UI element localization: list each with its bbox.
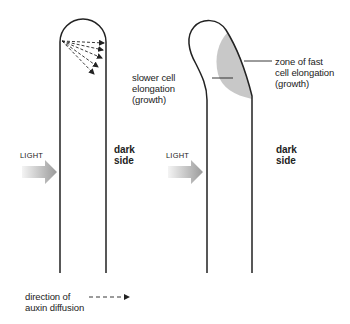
slow-zone-line2: elongation (132, 83, 175, 94)
fast-zone-line2: cell elongation (275, 67, 334, 78)
dark-side-line1: dark (114, 144, 135, 155)
dark-side-line2: side (114, 155, 135, 166)
auxin-diffusion-arrows (62, 41, 104, 74)
phototropism-diagram (0, 0, 350, 324)
dark-side-label-left: dark side (114, 144, 135, 166)
straight-shoot (22, 19, 106, 273)
fast-zone-line3: (growth) (275, 78, 334, 89)
fast-zone-shading (216, 32, 252, 99)
legend-label: direction of auxin diffusion (25, 291, 84, 313)
legend-line1: direction of (25, 291, 84, 302)
light-arrow-icon (22, 160, 57, 184)
light-label-left: LIGHT (20, 150, 43, 161)
light-label-right: LIGHT (166, 150, 189, 161)
fast-zone-label: zone of fast cell elongation (growth) (275, 56, 334, 89)
slow-zone-line1: slower cell (132, 72, 175, 83)
slow-zone-label: slower cell elongation (growth) (132, 72, 175, 105)
dark-side-label-right: dark side (276, 144, 297, 166)
slow-zone-line3: (growth) (132, 94, 175, 105)
bending-shoot (168, 21, 272, 273)
light-arrow-icon (168, 160, 203, 184)
dark-side-line2: side (276, 155, 297, 166)
dark-side-line1: dark (276, 144, 297, 155)
fast-zone-line1: zone of fast (275, 56, 334, 67)
legend-line2: auxin diffusion (25, 302, 84, 313)
